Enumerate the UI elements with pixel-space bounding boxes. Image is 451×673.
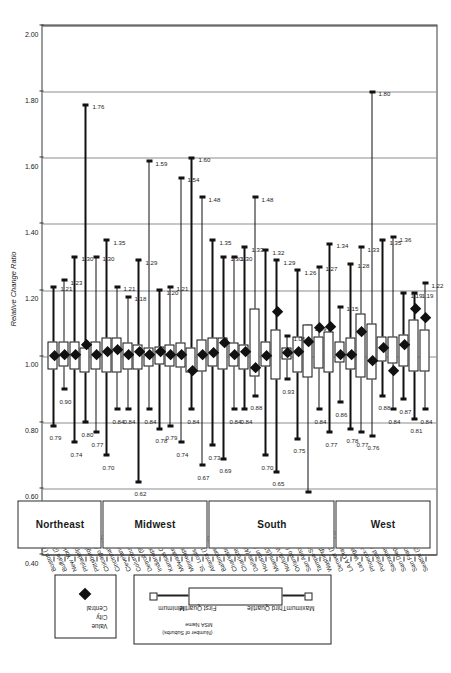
axis-tick-label: 1.80 <box>24 96 38 103</box>
axis-title: Relative Change Ratio <box>8 24 17 553</box>
whisker-cap-max <box>156 288 162 291</box>
whisker-cap-min <box>379 394 385 397</box>
central-city-marker <box>270 305 282 317</box>
boxplot-row: 1.800.76 <box>367 25 376 554</box>
whisker-cap-min <box>284 377 290 380</box>
min-value-label: 0.87 <box>399 407 411 414</box>
min-value-label: 0.70 <box>102 463 114 470</box>
boxplot-row: 1.300.69 <box>219 25 228 554</box>
max-value-label: 1.33 <box>368 245 380 252</box>
max-value-label: 1.80 <box>378 89 390 96</box>
whisker-cap-max <box>379 238 385 241</box>
max-value-label: 1.33 <box>251 245 263 252</box>
whisker <box>180 177 182 442</box>
whisker-cap-max <box>294 268 300 271</box>
gridline-1-80 <box>42 91 436 92</box>
min-value-label: 0.78 <box>346 436 358 443</box>
category-tick <box>297 556 298 561</box>
category-tick <box>361 556 362 561</box>
boxplot-row: 1.340.77 <box>325 25 334 554</box>
whisker-cap-min <box>358 430 364 433</box>
min-value-label: 0.77 <box>91 440 103 447</box>
category-tick <box>159 556 160 561</box>
whisker-cap-min <box>294 437 300 440</box>
region-bracket-west: West <box>336 500 431 548</box>
max-value-label: 1.09 <box>315 324 327 331</box>
boxplot-row: 1.190.81 <box>410 25 419 554</box>
min-value-label: 0.88 <box>250 403 262 410</box>
whisker-cap-min <box>156 427 162 430</box>
whisker-cap-max <box>401 291 407 294</box>
whisker-cap-min <box>114 407 120 410</box>
whisker-cap-max <box>199 195 205 198</box>
whisker-cap-max <box>316 265 322 268</box>
boxplot-row: 1.480.88 <box>250 25 259 554</box>
min-value-label: 0.62 <box>134 489 146 496</box>
whisker-cap-min <box>337 400 343 403</box>
whisker-cap-max <box>93 255 99 258</box>
category-tick <box>181 556 182 561</box>
max-value-label: 1.48 <box>208 195 220 202</box>
quartile-box <box>355 313 365 378</box>
whisker-cap-max <box>167 285 173 288</box>
whisker-cap-max <box>210 238 216 241</box>
category-tick <box>191 556 192 561</box>
boxplot-figure: Maximum Third Quartile First Quartile Mi… <box>0 0 451 673</box>
category-tick <box>414 556 415 561</box>
whisker-cap-max <box>337 305 343 308</box>
axis-tick <box>39 289 43 290</box>
axis-tick <box>39 222 43 223</box>
category-tick <box>404 556 405 561</box>
min-value-label: 0.75 <box>293 446 305 453</box>
region-label: South <box>257 518 286 529</box>
category-tick <box>202 556 203 561</box>
category-tick <box>64 556 65 561</box>
category-tick <box>319 556 320 561</box>
max-value-label: 1.29 <box>283 258 295 265</box>
min-value-label: 0.84 <box>123 417 135 424</box>
whisker-cap-min <box>231 407 237 410</box>
whisker-cap-max <box>422 281 428 284</box>
min-value-label: 0.78 <box>155 436 167 443</box>
axis-tick-label: 1.20 <box>24 295 38 302</box>
boxplot-row: 1.190.87 <box>399 25 408 554</box>
whisker-cap-min <box>125 407 131 410</box>
boxplot-row: 1.200.78 <box>155 25 164 554</box>
whisker-cap-max <box>284 334 290 337</box>
whisker <box>84 104 86 421</box>
max-value-label: 1.19 <box>410 291 422 298</box>
category-tick <box>255 556 256 561</box>
whisker-cap-max <box>178 176 184 179</box>
boxplot-row: 1.210.79 <box>49 25 58 554</box>
boxplot-row: 1.330.84 <box>240 25 249 554</box>
min-value-label: 0.88 <box>378 403 390 410</box>
category-tick <box>128 556 129 561</box>
central-city-marker <box>408 302 420 314</box>
whisker-cap-max <box>326 242 332 245</box>
min-value-label: 0.84 <box>388 417 400 424</box>
axis-tick <box>39 487 43 488</box>
min-value-label: 0.69 <box>219 466 231 473</box>
min-value-label: 0.84 <box>314 417 326 424</box>
quartile-box <box>387 336 397 363</box>
region-bracket-midwest: Midwest <box>102 500 207 548</box>
category-tick <box>425 556 426 561</box>
whisker-cap-min <box>401 397 407 400</box>
boxplot-row: 1.280.78 <box>346 25 355 554</box>
quartile-box <box>313 336 323 368</box>
whisker-cap-min <box>82 420 88 423</box>
boxplot-row: 1.270.84 <box>314 25 323 554</box>
axis-tick-label: 0.80 <box>24 427 38 434</box>
whisker-cap-min <box>72 440 78 443</box>
boxplot-row: 1.290.65 <box>272 25 281 554</box>
whisker-cap-max <box>369 90 375 93</box>
min-value-label: 0.93 <box>282 387 294 394</box>
whisker-cap-min <box>103 453 109 456</box>
category-tick <box>170 556 171 561</box>
whisker-cap-max <box>82 103 88 106</box>
category-tick <box>117 556 118 561</box>
min-value-label: 0.74 <box>176 450 188 457</box>
category-tick <box>75 556 76 561</box>
whisker <box>371 91 373 435</box>
min-value-label: 0.84 <box>144 417 156 424</box>
